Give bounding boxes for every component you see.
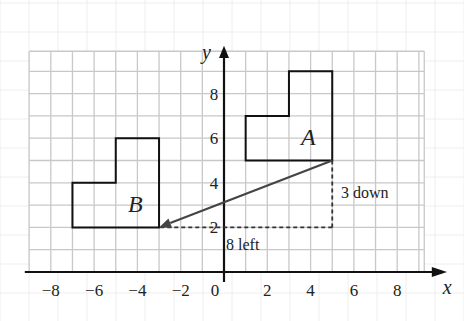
shape-label-B: B <box>128 191 143 217</box>
x-tick-label: 2 <box>263 281 272 300</box>
x-tick-label: −4 <box>128 281 147 300</box>
x-tick-label: −2 <box>172 281 190 300</box>
x-tick-label: 4 <box>306 281 315 300</box>
y-axis-label: y <box>200 41 211 64</box>
x-axis-label: x <box>442 276 452 298</box>
translation-diagram: xy −8−6−4−2024682468 AB 3 down8 left <box>0 0 464 321</box>
x-tick-label: 0 <box>211 281 220 300</box>
x-tick-label: 6 <box>350 281 359 300</box>
y-tick-label: 6 <box>210 129 219 148</box>
x-tick-label: −6 <box>85 281 103 300</box>
shape-label-A: A <box>299 124 316 150</box>
x-tick-label: 8 <box>393 281 402 300</box>
vertical-guide-label: 3 down <box>341 184 389 201</box>
x-tick-label: −8 <box>42 281 60 300</box>
y-tick-label: 4 <box>210 174 219 193</box>
y-tick-label: 8 <box>210 85 219 104</box>
horizontal-guide-label: 8 left <box>226 236 260 253</box>
